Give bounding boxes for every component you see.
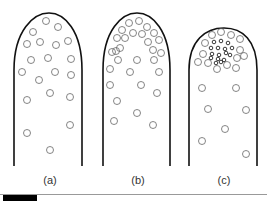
panel-label-a: (a) bbox=[35, 174, 65, 186]
vesicle bbox=[30, 29, 37, 36]
vesicle bbox=[52, 69, 59, 76]
vesicle bbox=[114, 98, 121, 105]
vesicle bbox=[24, 41, 31, 48]
vesicle bbox=[134, 57, 141, 64]
vesicle bbox=[45, 55, 52, 62]
vesicle bbox=[68, 56, 75, 63]
vesicle bbox=[151, 30, 158, 37]
vesicle bbox=[107, 82, 114, 89]
vesicle bbox=[154, 90, 161, 97]
cell-outline bbox=[14, 13, 82, 166]
vesicle bbox=[199, 85, 206, 92]
vesicle bbox=[195, 59, 202, 66]
vesicle bbox=[53, 42, 60, 49]
vesicle bbox=[47, 147, 54, 154]
vesicle bbox=[138, 82, 145, 89]
vesicle bbox=[24, 97, 31, 104]
small-vesicle bbox=[210, 52, 214, 56]
vesicle bbox=[114, 35, 121, 42]
vesicle bbox=[111, 118, 118, 125]
vesicle bbox=[218, 29, 225, 36]
vesicle bbox=[200, 51, 207, 58]
vesicle bbox=[28, 57, 35, 64]
vesicle bbox=[67, 94, 74, 101]
vesicle bbox=[47, 90, 54, 97]
small-vesicle bbox=[223, 47, 227, 51]
small-vesicle bbox=[216, 57, 220, 61]
vesicle bbox=[136, 18, 143, 25]
vesicle bbox=[224, 62, 231, 69]
vesicle bbox=[234, 55, 241, 62]
vesicle bbox=[241, 53, 248, 60]
vesicle bbox=[150, 47, 157, 54]
vesicle bbox=[134, 110, 141, 117]
diagram bbox=[0, 0, 267, 201]
vesicle bbox=[24, 130, 31, 137]
small-vesicle bbox=[219, 60, 223, 64]
vesicle bbox=[68, 72, 75, 79]
cell-outline bbox=[103, 13, 170, 166]
small-vesicle bbox=[214, 61, 218, 65]
vesicle bbox=[43, 18, 50, 25]
vesicle bbox=[37, 39, 44, 46]
vesicle bbox=[202, 40, 209, 47]
vesicle bbox=[122, 35, 129, 42]
panel-label-b: (b) bbox=[123, 174, 153, 186]
panel-c bbox=[189, 28, 257, 166]
small-vesicle bbox=[212, 40, 216, 44]
vesicle bbox=[237, 36, 244, 43]
small-vesicle bbox=[209, 46, 213, 50]
small-vesicle bbox=[230, 46, 234, 50]
small-vesicle bbox=[209, 56, 213, 60]
vesicle bbox=[233, 65, 240, 72]
vesicle bbox=[67, 122, 74, 129]
small-vesicle bbox=[216, 46, 220, 50]
vesicle bbox=[107, 66, 114, 73]
panel-label-c: (c) bbox=[209, 174, 239, 186]
vesicle bbox=[214, 66, 221, 73]
vesicle bbox=[65, 38, 72, 45]
small-vesicle bbox=[228, 53, 232, 57]
vesicle bbox=[156, 37, 163, 44]
vesicle bbox=[130, 30, 137, 37]
vesicle bbox=[156, 69, 163, 76]
small-vesicle bbox=[224, 51, 228, 55]
small-vesicle bbox=[219, 39, 223, 43]
vesicle bbox=[243, 107, 250, 114]
vesicle bbox=[126, 20, 133, 27]
vesicle bbox=[119, 27, 126, 34]
vesicle bbox=[233, 85, 240, 92]
vesicle bbox=[222, 126, 229, 133]
vesicle bbox=[127, 69, 134, 76]
vesicle bbox=[205, 60, 212, 67]
vesicle bbox=[144, 24, 151, 31]
vesicle bbox=[150, 122, 157, 129]
small-vesicle bbox=[217, 53, 221, 57]
vesicle bbox=[158, 50, 165, 57]
vesicle bbox=[55, 24, 62, 31]
vesicle bbox=[243, 151, 250, 158]
vesicle bbox=[145, 39, 152, 46]
scale-bar bbox=[3, 195, 37, 201]
vesicle bbox=[109, 49, 116, 56]
vesicle bbox=[151, 57, 158, 64]
vesicle bbox=[205, 106, 212, 113]
panel-b bbox=[103, 13, 170, 166]
vesicle bbox=[115, 57, 122, 64]
vesicle bbox=[199, 138, 206, 145]
vesicle bbox=[19, 69, 26, 76]
vesicle bbox=[228, 32, 235, 39]
vesicle bbox=[139, 31, 146, 38]
small-vesicle bbox=[226, 41, 230, 45]
panel-a bbox=[14, 13, 82, 166]
vesicle bbox=[36, 77, 43, 84]
vesicle bbox=[209, 32, 216, 39]
